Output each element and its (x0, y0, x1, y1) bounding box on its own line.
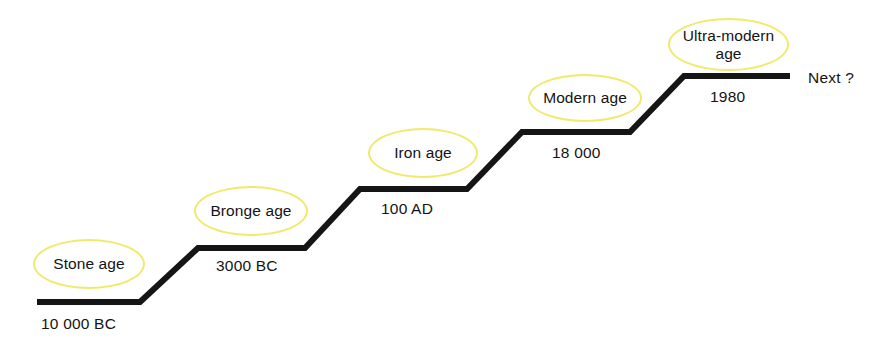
date-label-ultra-modern-age: 1980 (710, 89, 745, 105)
date-label-iron-age: 100 AD (381, 201, 433, 217)
era-label-modern-age: Modern age (543, 89, 627, 107)
era-label-bronge-age: Bronge age (210, 202, 291, 220)
era-label-iron-age: Iron age (394, 144, 452, 162)
era-label-stone-age: Stone age (53, 255, 125, 273)
era-label-ultra-modern-age: Ultra-modern age (670, 27, 787, 62)
date-label-bronge-age: 3000 BC (216, 258, 278, 274)
era-bubble-iron-age: Iron age (368, 128, 478, 178)
era-bubble-bronge-age: Bronge age (194, 186, 308, 236)
next-question-label: Next ? (808, 70, 854, 86)
date-label-stone-age: 10 000 BC (41, 316, 116, 332)
diagram-canvas: Stone age 10 000 BC Bronge age 3000 BC I… (0, 0, 884, 348)
date-label-modern-age: 18 000 (552, 145, 601, 161)
staircase-path (37, 76, 790, 302)
era-bubble-stone-age: Stone age (33, 239, 145, 289)
era-bubble-modern-age: Modern age (528, 74, 642, 122)
era-bubble-ultra-modern-age: Ultra-modern age (668, 18, 789, 71)
